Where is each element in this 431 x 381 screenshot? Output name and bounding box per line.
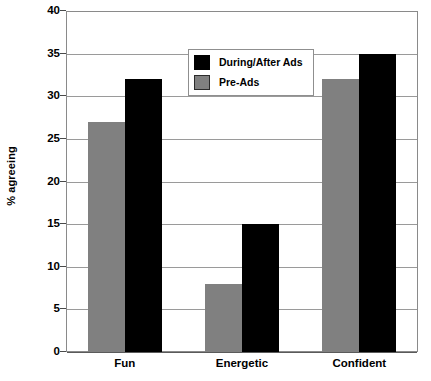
bar-energetic-during-after-ads [242,224,279,352]
y-tick-label-25: 25 [4,133,60,145]
x-tick-label-fun: Fun [66,358,183,370]
y-tick-label-35: 35 [4,48,60,60]
x-tick-label-energetic: Energetic [183,358,300,370]
y-tick-label-5: 5 [4,303,60,315]
legend-item-pre-ads: Pre-Ads [194,74,308,91]
x-tick-label-confident: Confident [301,358,418,370]
bar-fun-during-after-ads [125,79,162,352]
y-tick-label-10: 10 [4,261,60,273]
bar-chart: % agreeing 0510152025303540 FunEnergetic… [0,0,431,381]
y-tick-label-20: 20 [4,176,60,188]
chart-legend: During/After Ads Pre-Ads [188,49,314,96]
bar-confident-pre-ads [322,79,359,352]
y-tick-label-0: 0 [4,346,60,358]
x-axis: FunEnergeticConfident [66,358,418,378]
bar-fun-pre-ads [88,122,125,352]
y-tick-label-30: 30 [4,90,60,102]
legend-swatch-icon-black [194,55,210,70]
bar-energetic-pre-ads [205,284,242,352]
y-tick-label-40: 40 [4,5,60,17]
gridline-0 [67,352,417,353]
legend-label-during-after-ads: During/After Ads [219,57,303,68]
legend-label-pre-ads: Pre-Ads [219,77,259,88]
bar-confident-during-after-ads [359,54,396,352]
legend-swatch-icon-gray [194,75,210,90]
y-tick-label-15: 15 [4,218,60,230]
y-axis: 0510152025303540 [0,0,60,381]
legend-item-during-after-ads: During/After Ads [194,54,308,71]
